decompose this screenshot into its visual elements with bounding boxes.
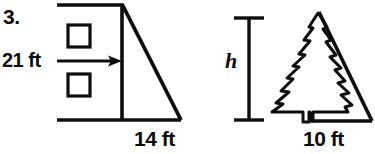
height-arrow-group [57, 56, 122, 67]
worksheet-figure: 3. 21 ft 14 ft h 10 ft [0, 0, 375, 154]
left-triangle-hypotenuse [122, 4, 181, 120]
square-marker-upper [68, 25, 90, 47]
figure-drawing [0, 0, 375, 154]
square-marker-lower [68, 74, 90, 96]
pine-tree-icon-left-outline [272, 13, 318, 122]
pine-tree-icon-right-outline [314, 14, 352, 112]
vertical-dimension-bar-icon [234, 18, 264, 120]
pine-tree-icon-trunk [310, 112, 313, 121]
pine-tree-icon [272, 13, 352, 122]
